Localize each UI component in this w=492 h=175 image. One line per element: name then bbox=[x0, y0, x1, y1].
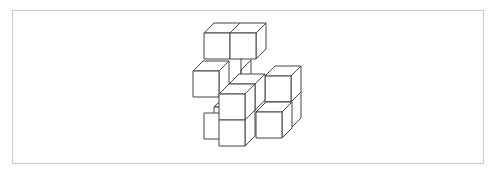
cube-front-right-lower bbox=[256, 102, 292, 138]
cube-center-upper bbox=[219, 84, 255, 120]
cube-stack-drawing bbox=[0, 0, 492, 175]
cube-top-right bbox=[230, 23, 266, 59]
cube-right-upper bbox=[265, 66, 301, 102]
